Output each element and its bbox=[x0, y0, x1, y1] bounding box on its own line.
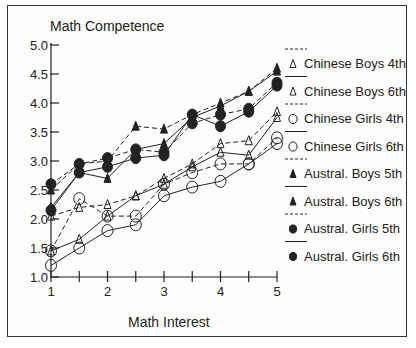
y-tick-label: 5.0 bbox=[30, 38, 48, 53]
y-tick-label: 3.5 bbox=[30, 125, 48, 140]
data-point bbox=[244, 106, 254, 117]
line-chart: Math Competence Math Interest 1.01.52.02… bbox=[0, 0, 416, 348]
x-tick-label: 2 bbox=[104, 284, 111, 299]
legend-label: Chinese Boys 6th bbox=[304, 84, 406, 99]
legend-marker bbox=[290, 170, 296, 178]
legend-marker bbox=[289, 114, 297, 123]
x-tick-label: 1 bbox=[47, 284, 54, 299]
data-point bbox=[132, 121, 139, 130]
legend-label: Chinese Girls 6th bbox=[304, 139, 404, 154]
data-point bbox=[103, 161, 113, 172]
data-point bbox=[46, 179, 56, 190]
y-tick-label: 4.0 bbox=[30, 96, 48, 111]
legend-label: Chinese Boys 4th bbox=[304, 56, 406, 71]
y-tick-label: 2.5 bbox=[30, 183, 48, 198]
legend-item: Chinese Boys 4th bbox=[285, 49, 406, 71]
x-tick-label: 5 bbox=[273, 284, 280, 299]
data-point bbox=[216, 109, 226, 120]
y-tick-label: 1.5 bbox=[30, 241, 48, 256]
legend-label: Austral. Boys 6th bbox=[304, 194, 402, 209]
legend-label: Austral. Girls 5th bbox=[304, 221, 400, 236]
legend-label: Chinese Girls 4th bbox=[304, 111, 404, 126]
y-tick-label: 3.0 bbox=[30, 154, 48, 169]
legend-marker bbox=[289, 252, 296, 260]
legend-item: Chinese Boys 6th bbox=[285, 77, 406, 99]
legend-marker bbox=[289, 225, 296, 233]
axes: 1.01.52.02.53.03.54.04.55.012345 bbox=[30, 38, 281, 299]
legend-label: Austral. Girls 6th bbox=[304, 249, 400, 264]
legend-item: Chinese Girls 4th bbox=[285, 104, 404, 126]
legend-item: Austral. Boys 5th bbox=[285, 159, 402, 181]
legend-marker bbox=[290, 87, 296, 95]
legend: Chinese Boys 4thChinese Boys 6thChinese … bbox=[285, 49, 406, 264]
y-tick-label: 2.0 bbox=[30, 212, 48, 227]
legend-item: Austral. Girls 5th bbox=[285, 214, 400, 236]
x-axis-title: Math Interest bbox=[128, 314, 210, 330]
y-tick-label: 1.0 bbox=[30, 270, 48, 285]
data-point bbox=[74, 167, 84, 178]
data-point bbox=[245, 86, 252, 95]
data-point bbox=[46, 205, 56, 216]
legend-item: Austral. Girls 6th bbox=[285, 242, 400, 264]
y-tick-label: 4.5 bbox=[30, 67, 48, 82]
data-point bbox=[216, 121, 226, 132]
legend-item: Chinese Girls 6th bbox=[285, 132, 404, 154]
legend-label: Austral. Boys 5th bbox=[304, 166, 402, 181]
data-point bbox=[245, 136, 252, 145]
legend-marker bbox=[290, 60, 296, 68]
legend-marker bbox=[290, 197, 296, 205]
y-axis-title: Math Competence bbox=[50, 18, 165, 34]
legend-marker bbox=[289, 142, 297, 151]
series-layer bbox=[46, 63, 283, 271]
x-tick-label: 3 bbox=[160, 284, 167, 299]
data-point bbox=[272, 80, 282, 91]
legend-item: Austral. Boys 6th bbox=[285, 187, 402, 209]
data-point bbox=[131, 153, 141, 164]
x-tick-label: 4 bbox=[217, 284, 224, 299]
data-point bbox=[159, 150, 169, 161]
data-point bbox=[187, 109, 197, 120]
data-point bbox=[161, 139, 168, 148]
